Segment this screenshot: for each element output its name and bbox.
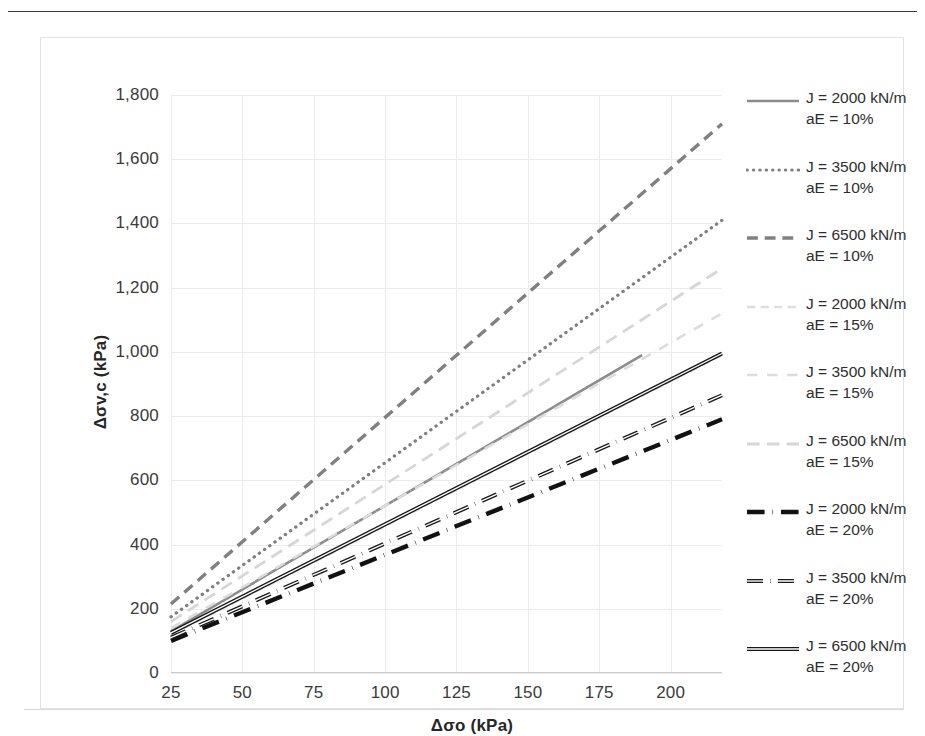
legend-item[interactable]: J = 6500 kN/maE = 15% xyxy=(746,431,925,477)
legend-item[interactable]: J = 2000 kN/maE = 15% xyxy=(746,294,925,340)
legend-swatch-icon xyxy=(746,164,800,176)
x-tick-label: 50 xyxy=(233,683,252,703)
chart-area: 02004006008001,0001,2001,4001,6001,800 Δ… xyxy=(40,37,904,709)
legend-item[interactable]: J = 6500 kN/maE = 10% xyxy=(746,225,925,271)
y-tick-label: 400 xyxy=(130,535,159,555)
x-tick-label: 150 xyxy=(513,683,542,703)
legend-label-line2: aE = 15% xyxy=(806,314,906,335)
page-top-rule xyxy=(8,11,917,12)
legend-swatch-icon xyxy=(746,95,800,107)
y-tick-label: 200 xyxy=(130,599,159,619)
chart-legend: J = 2000 kN/maE = 10%J = 3500 kN/maE = 1… xyxy=(746,88,925,708)
legend-label-line1: J = 6500 kN/m xyxy=(806,224,906,245)
y-tick-label: 600 xyxy=(130,470,159,490)
plot-area xyxy=(171,95,722,673)
legend-item[interactable]: J = 6500 kN/maE = 20% xyxy=(746,636,925,682)
legend-label: J = 2000 kN/maE = 10% xyxy=(806,87,906,129)
legend-swatch-icon xyxy=(746,506,800,518)
legend-item[interactable]: J = 2000 kN/maE = 20% xyxy=(746,499,925,545)
y-tick-label: 1,000 xyxy=(115,342,159,362)
legend-label: J = 2000 kN/maE = 15% xyxy=(806,293,906,335)
legend-label-line2: aE = 20% xyxy=(806,519,906,540)
legend-label-line2: aE = 10% xyxy=(806,177,906,198)
legend-label-line1: J = 3500 kN/m xyxy=(806,156,906,177)
y-axis-title: Δσv,c (kPa) xyxy=(91,302,111,462)
legend-label: J = 6500 kN/maE = 10% xyxy=(806,224,906,266)
x-tick-label: 100 xyxy=(371,683,400,703)
legend-swatch-icon xyxy=(746,438,800,450)
legend-label-line2: aE = 15% xyxy=(806,382,906,403)
legend-label: J = 6500 kN/maE = 20% xyxy=(806,635,906,677)
series-3 xyxy=(171,124,722,604)
series-2 xyxy=(171,220,722,617)
y-tick-label: 1,200 xyxy=(115,278,159,298)
page-bottom-rule xyxy=(24,709,904,710)
legend-label-line1: J = 2000 kN/m xyxy=(806,87,906,108)
gridline-horizontal xyxy=(171,673,722,674)
y-tick-label: 0 xyxy=(149,663,159,683)
legend-label-line1: J = 6500 kN/m xyxy=(806,635,906,656)
y-tick-label: 1,800 xyxy=(115,85,159,105)
page-root: 02004006008001,0001,2001,4001,6001,800 Δ… xyxy=(0,0,925,736)
x-tick-label: 75 xyxy=(304,683,323,703)
legend-label-line1: J = 6500 kN/m xyxy=(806,430,906,451)
legend-label: J = 3500 kN/maE = 10% xyxy=(806,156,906,198)
x-tick-label: 175 xyxy=(585,683,614,703)
legend-swatch-icon xyxy=(746,643,800,655)
legend-label-line2: aE = 10% xyxy=(806,245,906,266)
x-tick-label: 25 xyxy=(161,683,180,703)
legend-label-line2: aE = 15% xyxy=(806,451,906,472)
series-6 xyxy=(171,268,722,621)
y-tick-label: 800 xyxy=(130,406,159,426)
legend-label: J = 2000 kN/maE = 20% xyxy=(806,498,906,540)
legend-label-line1: J = 3500 kN/m xyxy=(806,361,906,382)
legend-label-line2: aE = 20% xyxy=(806,656,906,677)
legend-label: J = 6500 kN/maE = 15% xyxy=(806,430,906,472)
legend-label-line1: J = 2000 kN/m xyxy=(806,293,906,314)
legend-item[interactable]: J = 3500 kN/maE = 15% xyxy=(746,362,925,408)
legend-item[interactable]: J = 2000 kN/maE = 10% xyxy=(746,88,925,134)
y-tick-label: 1,400 xyxy=(115,213,159,233)
y-tick-label: 1,600 xyxy=(115,149,159,169)
legend-label-line2: aE = 10% xyxy=(806,108,906,129)
series-lines xyxy=(171,95,722,673)
legend-swatch-icon xyxy=(746,575,800,587)
x-tick-label: 125 xyxy=(442,683,471,703)
legend-label-line2: aE = 20% xyxy=(806,588,906,609)
legend-swatch-icon xyxy=(746,301,800,313)
x-axis-title: Δσo (kPa) xyxy=(41,716,903,736)
legend-label-line1: J = 3500 kN/m xyxy=(806,567,906,588)
legend-item[interactable]: J = 3500 kN/maE = 20% xyxy=(746,568,925,614)
legend-item[interactable]: J = 3500 kN/maE = 10% xyxy=(746,157,925,203)
series-8 xyxy=(171,395,722,637)
series-9 xyxy=(171,353,722,632)
legend-label: J = 3500 kN/maE = 20% xyxy=(806,567,906,609)
series-1 xyxy=(171,355,642,631)
legend-label-line1: J = 2000 kN/m xyxy=(806,498,906,519)
legend-label: J = 3500 kN/maE = 15% xyxy=(806,361,906,403)
legend-swatch-icon xyxy=(746,232,800,244)
x-tick-label: 200 xyxy=(656,683,685,703)
legend-swatch-icon xyxy=(746,369,800,381)
